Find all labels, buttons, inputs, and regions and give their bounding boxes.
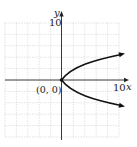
y-tick-label: 10 bbox=[49, 18, 62, 28]
x-axis-label: x bbox=[126, 82, 132, 92]
axes bbox=[5, 14, 127, 140]
origin-label: (0, 0) bbox=[36, 85, 62, 95]
upper-arrow-icon bbox=[119, 52, 126, 57]
x-tick-label: 10 bbox=[113, 83, 126, 93]
lower-arrow-icon bbox=[119, 103, 126, 108]
vertex-point bbox=[60, 78, 64, 82]
parabola-plot bbox=[0, 0, 137, 147]
